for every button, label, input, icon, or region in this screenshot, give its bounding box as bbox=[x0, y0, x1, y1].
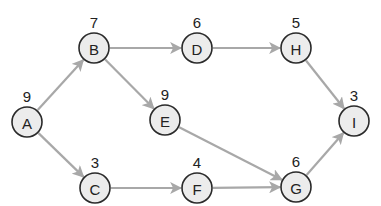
node-label: D bbox=[192, 41, 203, 58]
node-label: H bbox=[291, 41, 302, 58]
edge-b-to-e bbox=[105, 59, 154, 108]
node-d: D6 bbox=[182, 14, 212, 63]
node-c: C3 bbox=[80, 154, 110, 203]
node-weight: 3 bbox=[91, 154, 99, 171]
edge-h-to-i bbox=[306, 61, 344, 109]
node-b: B7 bbox=[79, 14, 109, 63]
node-weight: 7 bbox=[90, 14, 98, 31]
edge-f-to-g bbox=[213, 187, 280, 188]
node-g: G6 bbox=[281, 153, 311, 202]
node-i: I3 bbox=[339, 87, 369, 136]
edge-a-to-b bbox=[38, 60, 84, 110]
edge-g-to-i bbox=[307, 133, 344, 175]
node-label: G bbox=[290, 180, 302, 197]
node-label: E bbox=[160, 113, 170, 130]
node-e: E9 bbox=[150, 86, 180, 135]
nodes-layer: A9B7C3D6E9F4G6H5I3 bbox=[12, 14, 369, 203]
node-label: C bbox=[90, 181, 101, 198]
edge-a-to-c bbox=[39, 133, 84, 177]
node-h: H5 bbox=[281, 14, 311, 63]
network-diagram: A9B7C3D6E9F4G6H5I3 bbox=[0, 0, 381, 206]
node-weight: 3 bbox=[350, 87, 358, 104]
node-f: F4 bbox=[182, 154, 212, 203]
node-label: F bbox=[192, 181, 201, 198]
node-weight: 6 bbox=[292, 153, 300, 170]
node-label: B bbox=[89, 41, 99, 58]
node-label: I bbox=[352, 114, 356, 131]
node-weight: 9 bbox=[161, 86, 169, 103]
node-weight: 9 bbox=[23, 88, 31, 105]
node-a: A9 bbox=[12, 88, 42, 137]
node-weight: 4 bbox=[193, 154, 201, 171]
node-weight: 5 bbox=[292, 14, 300, 31]
node-weight: 6 bbox=[193, 14, 201, 31]
node-label: A bbox=[22, 115, 32, 132]
